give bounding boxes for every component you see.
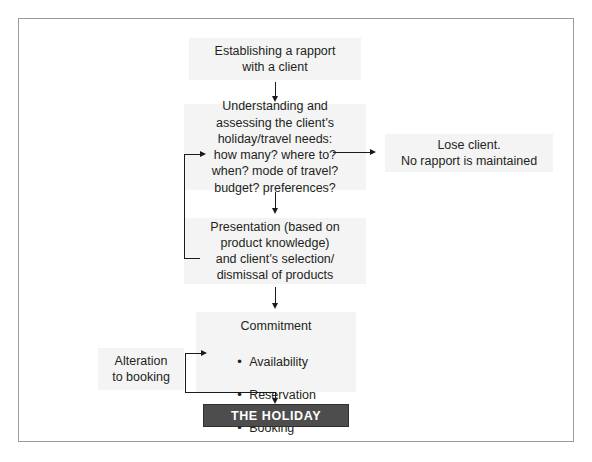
connector-presentation-loop-vertical: [184, 154, 185, 259]
node-understanding-needs-label: Understanding and assessing the client’s…: [212, 98, 338, 196]
node-alteration-to-booking: Alteration to booking: [98, 348, 184, 390]
connector-booking-loop-bottom: [185, 392, 276, 393]
node-establishing-rapport: Establishing a rapport with a client: [189, 38, 361, 80]
arrowhead-right-icon: [370, 149, 376, 155]
node-establishing-rapport-label: Establishing a rapport with a client: [215, 43, 336, 76]
arrowhead-right-icon: [201, 350, 207, 356]
node-the-holiday: THE HOLIDAY: [203, 404, 349, 427]
node-alteration-to-booking-label: Alteration to booking: [112, 353, 170, 386]
node-understanding-needs: Understanding and assessing the client’s…: [184, 104, 366, 190]
arrowhead-down-icon: [272, 398, 278, 404]
connector-presentation-loop-bottom: [184, 258, 200, 259]
node-the-holiday-label: THE HOLIDAY: [231, 409, 321, 423]
node-commitment-heading: Commitment: [241, 318, 312, 334]
connector-booking-loop-vertical: [185, 353, 186, 393]
arrowhead-down-icon: [272, 96, 278, 102]
arrowhead-down-icon: [272, 303, 278, 309]
arrowhead-down-icon: [272, 208, 278, 214]
connector-needs-to-lose-client: [333, 152, 371, 153]
arrowhead-right-icon: [200, 151, 206, 157]
node-lose-client: Lose client. No rapport is maintained: [385, 134, 553, 172]
list-item: Availability: [236, 354, 316, 371]
node-lose-client-label: Lose client. No rapport is maintained: [401, 137, 537, 170]
node-presentation-label: Presentation (based on product knowledge…: [210, 219, 339, 284]
node-presentation: Presentation (based on product knowledge…: [184, 218, 366, 284]
node-commitment: Commitment Availability Reservation Book…: [196, 312, 356, 392]
